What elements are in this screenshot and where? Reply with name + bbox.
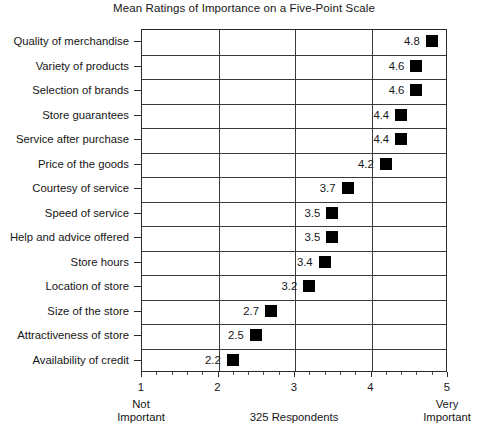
data-point-value-label: 4.8 <box>394 35 420 47</box>
category-label: Price of the goods <box>38 158 129 170</box>
y-axis-tick <box>134 237 141 238</box>
x-axis-label: 325 Respondents <box>214 411 374 424</box>
horizontal-gridline <box>142 349 446 350</box>
x-axis-minor-tick <box>401 372 402 375</box>
category-label: Help and advice offered <box>10 231 129 243</box>
x-axis-tick-label: 5 <box>432 381 462 393</box>
x-axis-minor-tick <box>172 372 173 375</box>
x-axis-major-tick <box>294 372 295 377</box>
horizontal-gridline <box>142 275 446 276</box>
horizontal-gridline <box>142 177 446 178</box>
x-axis-minor-tick <box>279 372 280 375</box>
y-axis-tick <box>134 115 141 116</box>
data-point-value-label: 4.4 <box>363 109 389 121</box>
x-axis-minor-tick <box>202 372 203 375</box>
y-axis-tick <box>134 90 141 91</box>
category-label: Store guarantees <box>42 109 129 121</box>
y-axis-tick <box>134 139 141 140</box>
horizontal-gridline <box>142 55 446 56</box>
data-point-value-label: 4.2 <box>348 158 374 170</box>
chart-title: Mean Ratings of Importance on a Five-Poi… <box>0 2 488 14</box>
data-point-marker <box>265 305 277 317</box>
data-point-marker <box>303 280 315 292</box>
horizontal-gridline <box>142 153 446 154</box>
x-axis-tick-label: 1 <box>126 381 156 393</box>
data-point-value-label: 3.5 <box>294 231 320 243</box>
data-point-value-label: 3.5 <box>294 207 320 219</box>
category-label: Attractiveness of store <box>17 329 129 341</box>
data-point-marker <box>227 354 239 366</box>
x-axis-tick-label: 3 <box>279 381 309 393</box>
data-point-marker <box>326 207 338 219</box>
x-axis-note-left-line2: Important <box>117 411 165 423</box>
data-point-marker <box>342 182 354 194</box>
data-point-value-label: 4.4 <box>363 133 389 145</box>
category-label: Location of store <box>45 280 129 292</box>
data-point-marker <box>319 256 331 268</box>
horizontal-gridline <box>142 128 446 129</box>
data-point-marker <box>250 329 262 341</box>
data-point-value-label: 3.7 <box>310 182 336 194</box>
horizontal-gridline <box>142 202 446 203</box>
y-axis-tick <box>134 213 141 214</box>
x-axis-note-right-line2: Important <box>423 411 471 423</box>
data-point-value-label: 2.5 <box>218 329 244 341</box>
horizontal-gridline <box>142 226 446 227</box>
x-axis-major-tick <box>371 372 372 377</box>
category-label: Availability of credit <box>33 354 130 366</box>
chart-container: Mean Ratings of Importance on a Five-Poi… <box>0 0 488 441</box>
x-axis-minor-tick <box>263 372 264 375</box>
data-point-marker <box>410 60 422 72</box>
category-label: Speed of service <box>45 207 129 219</box>
data-point-marker <box>395 109 407 121</box>
plot-area <box>141 29 447 372</box>
y-axis-tick <box>134 311 141 312</box>
y-axis-tick <box>134 335 141 336</box>
y-axis-tick <box>134 66 141 67</box>
x-axis-major-tick <box>141 372 142 377</box>
x-axis-minor-tick <box>432 372 433 375</box>
category-label: Variety of products <box>36 60 129 72</box>
data-point-value-label: 3.2 <box>271 280 297 292</box>
x-axis-minor-tick <box>340 372 341 375</box>
vertical-gridline <box>219 30 220 371</box>
x-axis-note-left: Not Important <box>91 398 191 424</box>
y-axis-tick <box>134 41 141 42</box>
category-label: Quality of merchandise <box>13 35 129 47</box>
horizontal-gridline <box>142 324 446 325</box>
x-axis-minor-tick <box>386 372 387 375</box>
x-axis-minor-tick <box>233 372 234 375</box>
x-axis-minor-tick <box>355 372 356 375</box>
horizontal-gridline <box>142 79 446 80</box>
x-axis-note-left-line1: Not <box>132 398 150 410</box>
category-label: Store hours <box>71 256 129 268</box>
x-axis-minor-tick <box>156 372 157 375</box>
x-axis-minor-tick <box>416 372 417 375</box>
category-label: Service after purchase <box>16 133 129 145</box>
y-axis-tick <box>134 360 141 361</box>
data-point-marker <box>395 133 407 145</box>
data-point-marker <box>426 35 438 47</box>
y-axis-tick <box>134 164 141 165</box>
data-point-value-label: 4.6 <box>378 60 404 72</box>
category-label: Courtesy of service <box>32 182 129 194</box>
x-axis-minor-tick <box>325 372 326 375</box>
x-axis-minor-tick <box>187 372 188 375</box>
vertical-gridline <box>295 30 296 371</box>
data-point-value-label: 2.7 <box>233 305 259 317</box>
y-axis-tick <box>134 188 141 189</box>
category-label: Selection of brands <box>32 84 129 96</box>
data-point-value-label: 4.6 <box>378 84 404 96</box>
horizontal-gridline <box>142 251 446 252</box>
x-axis-minor-tick <box>248 372 249 375</box>
x-axis-minor-tick <box>309 372 310 375</box>
category-label: Size of the store <box>47 305 129 317</box>
horizontal-gridline <box>142 104 446 105</box>
x-axis-note-right-line1: Very <box>436 398 459 410</box>
x-axis-tick-label: 4 <box>356 381 386 393</box>
data-point-marker <box>326 231 338 243</box>
x-axis-major-tick <box>447 372 448 377</box>
data-point-marker <box>410 84 422 96</box>
horizontal-gridline <box>142 300 446 301</box>
x-axis-tick-label: 2 <box>203 381 233 393</box>
